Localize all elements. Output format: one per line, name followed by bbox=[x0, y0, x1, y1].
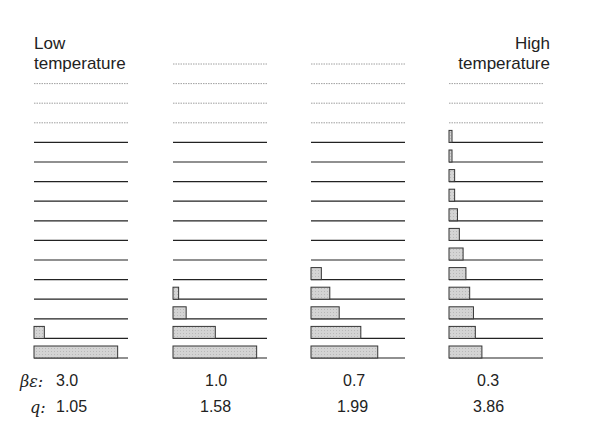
population-bar bbox=[311, 307, 339, 319]
q-value: 1.58 bbox=[200, 398, 231, 416]
beta-epsilon-value: 3.0 bbox=[56, 372, 78, 390]
beta-epsilon-label: βε: bbox=[20, 372, 43, 391]
population-bar bbox=[34, 346, 118, 358]
column-1 bbox=[34, 84, 128, 358]
population-bar bbox=[449, 248, 463, 260]
population-bar bbox=[449, 326, 475, 338]
q-value: 1.99 bbox=[337, 398, 368, 416]
population-bar bbox=[311, 268, 321, 280]
population-bar bbox=[449, 307, 473, 319]
population-bar bbox=[34, 326, 44, 338]
column-2 bbox=[173, 64, 267, 358]
population-bar bbox=[449, 209, 457, 221]
q-value: 1.05 bbox=[56, 398, 87, 416]
q-label: q: bbox=[30, 398, 46, 417]
beta-epsilon-value: 1.0 bbox=[205, 372, 227, 390]
population-bar bbox=[449, 287, 470, 299]
energy-level-diagram bbox=[0, 0, 590, 440]
population-bar bbox=[449, 130, 452, 142]
population-bar bbox=[173, 287, 179, 299]
q-value: 3.86 bbox=[473, 398, 504, 416]
q-symbol: q: bbox=[30, 398, 46, 417]
beta-epsilon-value: 0.7 bbox=[343, 372, 365, 390]
population-bar bbox=[311, 346, 378, 358]
column-4 bbox=[449, 84, 543, 358]
beta-epsilon-value: 0.3 bbox=[477, 372, 499, 390]
population-bar bbox=[311, 326, 361, 338]
population-bar bbox=[173, 326, 215, 338]
population-bar bbox=[449, 189, 455, 201]
population-bar bbox=[311, 287, 330, 299]
column-3 bbox=[311, 64, 405, 358]
population-bar bbox=[173, 346, 257, 358]
population-bar bbox=[449, 170, 455, 182]
population-bar bbox=[449, 346, 482, 358]
population-bar bbox=[173, 307, 186, 319]
population-bar bbox=[449, 150, 452, 162]
beta-epsilon-symbol: βε: bbox=[20, 372, 43, 391]
population-bar bbox=[449, 268, 466, 280]
population-bar bbox=[449, 228, 459, 240]
